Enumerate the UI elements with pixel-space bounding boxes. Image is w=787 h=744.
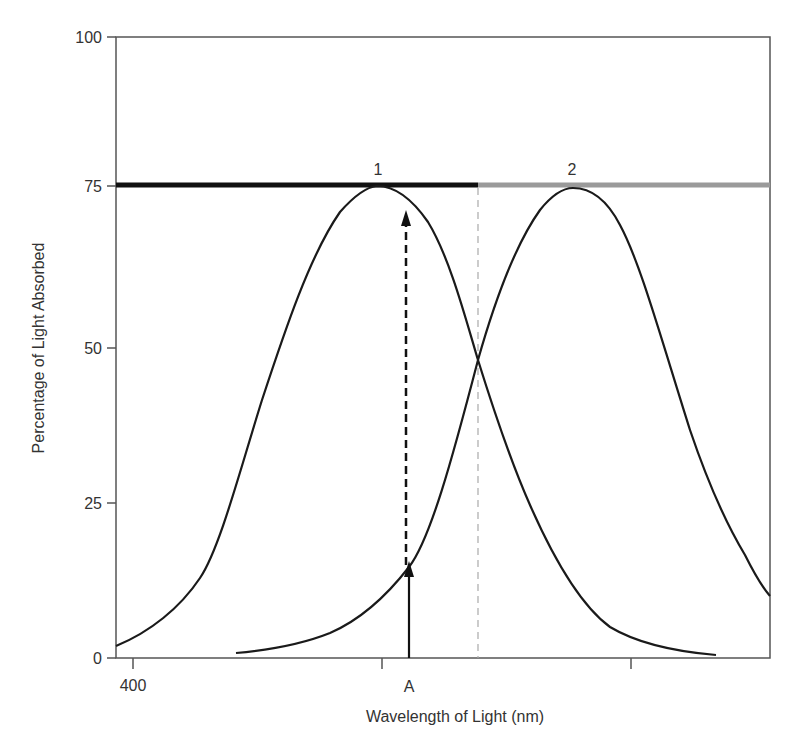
wavelength-marker-a: A <box>404 678 415 695</box>
y-axis-ticks: 1007550250 <box>75 29 116 667</box>
absorption-curve-1 <box>116 186 716 655</box>
pigment-2-label: 2 <box>568 161 577 178</box>
y-axis-title: Percentage of Light Absorbed <box>30 243 47 454</box>
y-tick-label: 75 <box>84 178 102 195</box>
plot-frame <box>116 37 770 658</box>
absorption-curve-2 <box>236 188 770 653</box>
y-tick-label: 50 <box>84 340 102 357</box>
absorption-chart: 1007550250 400 1 2 A Wavelength of Light… <box>0 0 787 744</box>
x-axis-ticks: 400 <box>120 658 631 694</box>
y-tick-label: 100 <box>75 29 102 46</box>
y-tick-label: 0 <box>93 650 102 667</box>
x-axis-title: Wavelength of Light (nm) <box>366 708 544 725</box>
y-tick-label: 25 <box>84 495 102 512</box>
arrowhead-icon <box>401 210 411 226</box>
x-tick-label: 400 <box>120 677 147 694</box>
pigment-1-label: 1 <box>374 161 383 178</box>
